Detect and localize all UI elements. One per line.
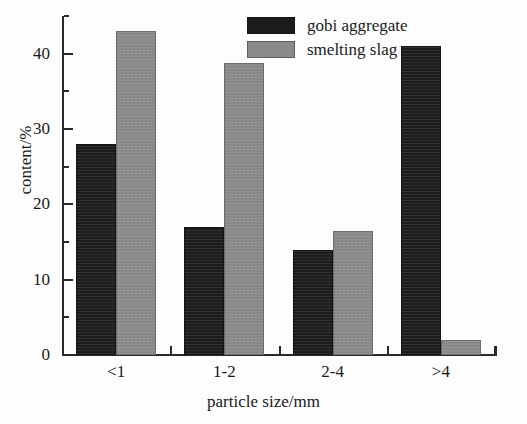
legend-item-gobi-aggregate: gobi aggregate bbox=[247, 14, 477, 36]
y-tick-label-0: 0 bbox=[6, 346, 50, 363]
bar-chart-figure: 010203040 <11-22-4>4 content/% particle … bbox=[0, 0, 527, 424]
legend-swatch-icon-smelting-slag bbox=[247, 41, 295, 58]
bar-gobi-aggregate-4 bbox=[401, 46, 441, 355]
bar-gobi-aggregate-1 bbox=[76, 144, 116, 355]
y-axis-title: content/% bbox=[16, 90, 36, 230]
plot-area bbox=[62, 16, 495, 355]
legend-swatch-icon-gobi-aggregate bbox=[247, 17, 295, 34]
x-tick-label-1: 1-2 bbox=[179, 362, 269, 381]
bar-gobi-aggregate-1-2 bbox=[184, 227, 224, 355]
bar-gobi-aggregate-2-4 bbox=[293, 250, 333, 355]
chart-legend: gobi aggregate smelting slag bbox=[247, 14, 477, 62]
bar-smelting-slag-1-2 bbox=[224, 63, 264, 355]
x-tick-label-0: <1 bbox=[71, 362, 161, 381]
legend-label-smelting-slag: smelting slag bbox=[307, 41, 397, 58]
x-tick-label-2: 2-4 bbox=[288, 362, 378, 381]
x-axis-title: particle size/mm bbox=[0, 392, 527, 412]
bar-smelting-slag-1 bbox=[116, 31, 156, 355]
x-tick-3 bbox=[495, 346, 497, 355]
bar-smelting-slag-4 bbox=[441, 340, 481, 355]
legend-item-smelting-slag: smelting slag bbox=[247, 38, 477, 60]
bar-smelting-slag-2-4 bbox=[333, 231, 373, 355]
y-tick-label-10: 10 bbox=[6, 271, 50, 288]
y-tick-label-40: 40 bbox=[6, 45, 50, 62]
x-tick-label-3: >4 bbox=[396, 362, 486, 381]
legend-label-gobi-aggregate: gobi aggregate bbox=[307, 17, 408, 34]
